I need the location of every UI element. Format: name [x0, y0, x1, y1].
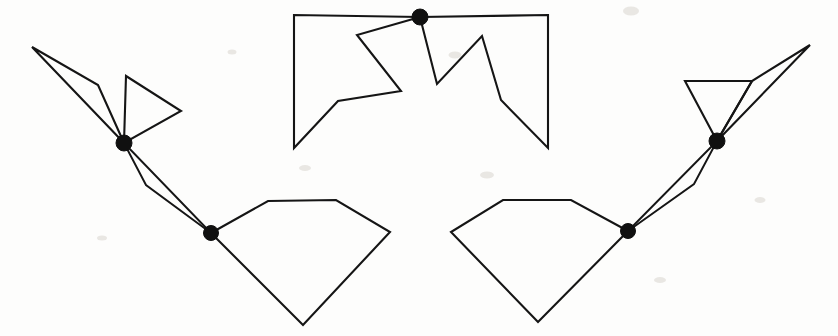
paper-speck	[228, 50, 237, 55]
paper-speck	[755, 197, 766, 203]
shape-right-triangle	[685, 81, 752, 141]
paper-speck	[97, 236, 107, 241]
node-layer	[116, 9, 725, 241]
node-top-center	[412, 9, 428, 25]
node-left-lower	[204, 226, 219, 241]
shape-left-sliver	[32, 47, 124, 143]
shape-center-right	[420, 15, 548, 148]
shape-right-sliver	[717, 45, 810, 141]
paper-speck	[299, 165, 311, 171]
shape-left-pentagon	[211, 200, 390, 325]
shape-layer	[32, 15, 810, 325]
paper-speck	[623, 7, 639, 16]
figure-canvas	[0, 0, 838, 336]
paper-speck	[480, 172, 494, 179]
shape-right-pentagon	[451, 200, 628, 322]
connector-left-pair	[124, 143, 211, 233]
paper-texture-layer	[97, 7, 766, 284]
node-right-lower	[621, 224, 636, 239]
node-right-upper	[709, 133, 725, 149]
shape-left-triangle	[124, 76, 181, 143]
paper-speck	[449, 52, 462, 59]
shape-center-left	[294, 15, 420, 148]
figure-svg	[0, 0, 838, 336]
node-left-upper	[116, 135, 132, 151]
connector-right-pair	[628, 141, 717, 231]
paper-speck	[654, 277, 666, 283]
